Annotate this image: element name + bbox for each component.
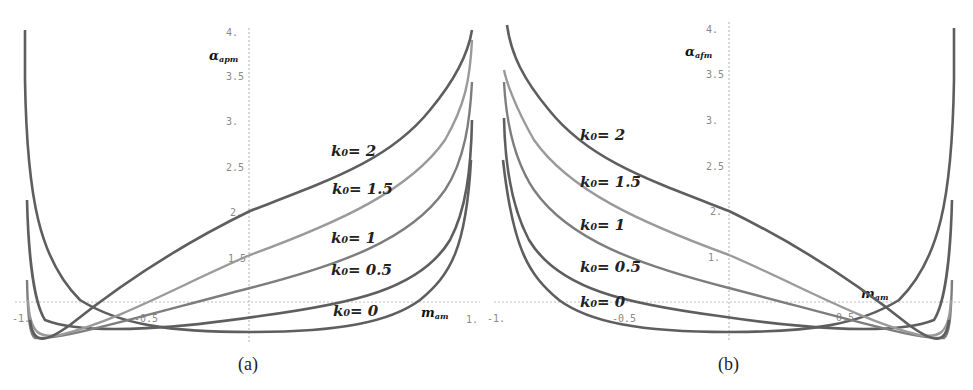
x-axis-title-a: mam <box>421 305 448 321</box>
y-tick-b-5: 1. <box>708 252 720 263</box>
k-label-b-0.5: k₀= 0.5 <box>580 258 641 276</box>
y-axis-title-b: αafm <box>685 44 712 60</box>
k-label-b-1: k₀= 1 <box>580 216 625 234</box>
x-tick-a-left: -1. <box>12 313 30 324</box>
caption-a: (a) <box>238 354 258 375</box>
k-label-b-1.5: k₀= 1.5 <box>580 173 641 191</box>
figure: 4. 3.5 3. 2.5 2. 1.5 -1. -0.5 1. αapm ma… <box>0 0 973 390</box>
y-tick-a-3: 2.5 <box>226 162 244 173</box>
y-tick-b-1: 3.5 <box>706 69 724 80</box>
y-tick-a-2: 3. <box>226 116 238 127</box>
panel-a: 4. 3.5 3. 2.5 2. 1.5 -1. -0.5 1. αapm ma… <box>12 27 480 375</box>
k-label-a-1.5: k₀= 1.5 <box>332 180 393 198</box>
k-label-a-0: k₀= 0 <box>333 302 379 320</box>
k-label-a-2: k₀= 2 <box>331 142 376 160</box>
y-axis-title-a: αapm <box>209 48 238 64</box>
y-tick-b-3: 2.5 <box>706 161 724 172</box>
curve-a-k0-1.5 <box>28 40 472 336</box>
y-tick-a-0: 4. <box>226 27 238 38</box>
k-label-a-0.5: k₀= 0.5 <box>331 261 392 279</box>
x-tick-a-right: 1. <box>466 314 478 325</box>
y-tick-b-0: 4. <box>706 24 718 35</box>
y-tick-a-1: 3.5 <box>226 71 244 82</box>
x-tick-b-left: -1. <box>487 313 505 324</box>
curve-a-k0-2 <box>30 30 472 339</box>
caption-b: (b) <box>718 354 739 375</box>
y-tick-b-2: 3. <box>706 115 718 126</box>
k-label-b-2: k₀= 2 <box>580 126 625 144</box>
k-label-a-1: k₀= 1 <box>331 229 376 247</box>
panel-b: 4. 3.5 3. 2.5 2. 1. -1. -0.5 0.5 αafm ma… <box>487 22 962 375</box>
k-label-b-0: k₀= 0 <box>580 293 626 311</box>
